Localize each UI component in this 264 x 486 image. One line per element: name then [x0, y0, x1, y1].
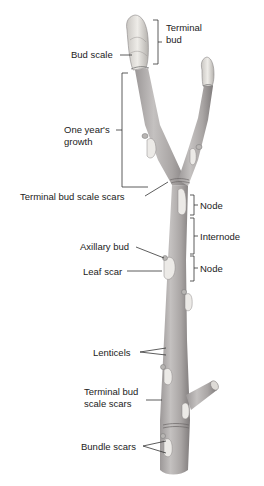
label-terminal-bud-line2: bud — [166, 34, 182, 45]
label-bundle-scars: Bundle scars — [81, 441, 136, 452]
label-terminal-bud-scale-scars-bottom-line2: scale scars — [84, 398, 132, 409]
lateral-terminal-bud — [201, 57, 214, 86]
label-terminal-bud-scale-scars-top: Terminal bud scale scars — [20, 191, 125, 202]
label-node-top: Node — [200, 200, 223, 211]
label-one-years-growth-line2: growth — [64, 136, 93, 147]
label-one-years-growth-line1: One year's — [64, 124, 110, 135]
label-axillary-bud: Axillary bud — [80, 241, 129, 252]
twig-diagram: Terminal bud Bud scale One year's growth… — [0, 0, 264, 486]
terminal-bud — [127, 15, 149, 70]
label-lenticels: Lenticels — [93, 347, 131, 358]
label-terminal-bud-scale-scars-bottom-line1: Terminal bud — [84, 386, 138, 397]
label-node-bottom: Node — [200, 263, 223, 274]
label-internode: Internode — [200, 231, 240, 242]
twig-illustration — [0, 0, 264, 486]
label-leaf-scar: Leaf scar — [83, 266, 122, 277]
label-terminal-bud-line1: Terminal — [166, 22, 202, 33]
label-bud-scale: Bud scale — [71, 49, 113, 60]
